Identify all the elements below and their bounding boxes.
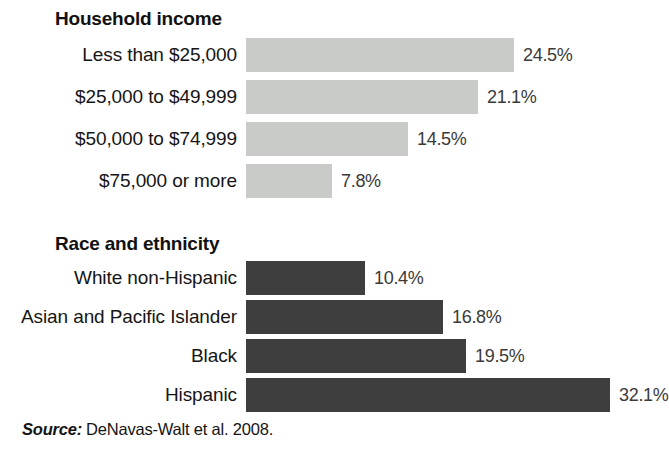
bar-segment: [246, 339, 466, 373]
bar-category-label: Asian and Pacific Islander: [21, 300, 245, 334]
bar-value-label: 14.5%: [408, 122, 467, 156]
bar-segment: [246, 164, 332, 198]
bar-value-label: 7.8%: [332, 164, 381, 198]
bar-segment: [246, 300, 443, 334]
bar-row: $50,000 to $74,999 14.5%: [0, 122, 666, 156]
source-note: Source:DeNavas-Walt et al. 2008.: [22, 420, 273, 439]
bar-segment: [246, 378, 610, 412]
bar-segment: [246, 80, 478, 114]
bar-segment: [246, 38, 514, 72]
source-citation: DeNavas-Walt et al. 2008.: [82, 420, 273, 438]
bar-row: Hispanic 32.1%: [0, 378, 666, 412]
bar-segment: [246, 261, 365, 295]
bar-category-label: $25,000 to $49,999: [75, 80, 245, 114]
bar-category-label: White non-Hispanic: [74, 261, 245, 295]
chart-household-income: Less than $25,000 24.5% $25,000 to $49,9…: [0, 38, 666, 198]
bar-row: Asian and Pacific Islander 16.8%: [0, 300, 666, 334]
bar-value-label: 19.5%: [466, 339, 525, 373]
source-label: Source:: [22, 420, 82, 438]
bar-row: Less than $25,000 24.5%: [0, 38, 666, 72]
bar-value-label: 21.1%: [478, 80, 537, 114]
bar-category-label: Less than $25,000: [82, 38, 245, 72]
bar-category-label: Hispanic: [165, 378, 245, 412]
bar-value-label: 32.1%: [610, 378, 669, 412]
bar-row: Black 19.5%: [0, 339, 666, 373]
bar-value-label: 16.8%: [443, 300, 502, 334]
chart-title-race-and-ethnicity: Race and ethnicity: [55, 233, 219, 255]
bar-row: White non-Hispanic 10.4%: [0, 261, 666, 295]
bar-row: $75,000 or more 7.8%: [0, 164, 666, 198]
chart-title-household-income: Household income: [55, 8, 222, 30]
bar-category-label: $75,000 or more: [99, 164, 245, 198]
bar-value-label: 10.4%: [365, 261, 424, 295]
bar-category-label: Black: [191, 339, 245, 373]
bar-category-label: $50,000 to $74,999: [75, 122, 245, 156]
chart-race-and-ethnicity: White non-Hispanic 10.4% Asian and Pacif…: [0, 261, 666, 416]
bar-row: $25,000 to $49,999 21.1%: [0, 80, 666, 114]
bar-segment: [246, 122, 408, 156]
bar-value-label: 24.5%: [514, 38, 573, 72]
